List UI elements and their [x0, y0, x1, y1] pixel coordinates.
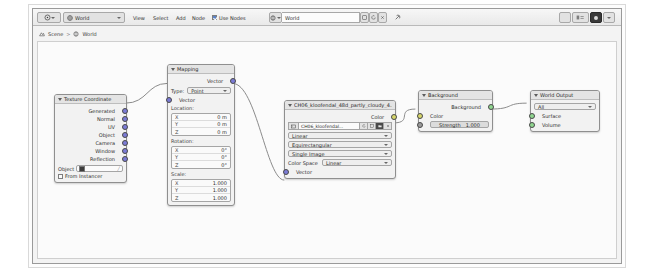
- node-world-output[interactable]: World Output All Surface Volume: [530, 90, 600, 132]
- use-nodes-checkbox[interactable]: [212, 15, 217, 20]
- input-vector[interactable]: Vector: [171, 96, 231, 103]
- use-nodes-toggle[interactable]: Use Nodes: [210, 12, 248, 23]
- output-generated[interactable]: Generated: [58, 107, 123, 114]
- collapse-icon[interactable]: [288, 104, 292, 107]
- object-socket[interactable]: [122, 132, 128, 138]
- pin-icon[interactable]: [393, 13, 402, 22]
- eyedropper-icon[interactable]: ╱: [118, 166, 120, 171]
- world-browse-button[interactable]: [269, 12, 282, 23]
- output-vector[interactable]: Vector: [171, 77, 231, 84]
- from-instancer-checkbox[interactable]: [58, 174, 63, 179]
- use-nodes-label: Use Nodes: [219, 15, 246, 21]
- node-mapping[interactable]: Mapping Vector Type: Point Vector: [167, 64, 235, 206]
- node-header[interactable]: Mapping: [168, 65, 234, 74]
- input-vector[interactable]: Vector: [288, 168, 392, 175]
- menu-node[interactable]: Node: [189, 12, 208, 23]
- world-unlink-button[interactable]: [378, 12, 387, 23]
- reflection-socket[interactable]: [122, 156, 128, 162]
- strength-input-socket[interactable]: [417, 122, 423, 128]
- image-name-field[interactable]: CH06_kloofendal...: [299, 122, 360, 130]
- image-refresh-button[interactable]: [360, 122, 368, 130]
- node-canvas[interactable]: Texture Coordinate Generated Normal UV O…: [37, 41, 617, 259]
- image-unlink-button[interactable]: [384, 122, 392, 130]
- vector-output-socket[interactable]: [230, 78, 236, 84]
- type-dropdown[interactable]: Point: [187, 87, 231, 94]
- rotation-x-row[interactable]: X 0°: [172, 147, 230, 154]
- scale-y-row[interactable]: Y 1.000: [172, 187, 230, 194]
- target-dropdown[interactable]: All: [534, 103, 596, 110]
- source-dropdown[interactable]: Single Image: [288, 150, 392, 157]
- world-new-button[interactable]: [360, 12, 369, 23]
- camera-socket[interactable]: [122, 140, 128, 146]
- color-output-socket[interactable]: [391, 114, 397, 120]
- collapse-icon[interactable]: [58, 98, 62, 101]
- background-output-socket[interactable]: [488, 104, 494, 110]
- node-texture-coordinate[interactable]: Texture Coordinate Generated Normal UV O…: [54, 94, 127, 183]
- location-y-row[interactable]: Y 0 m: [172, 121, 230, 128]
- image-new-button[interactable]: [368, 122, 376, 130]
- scale-z-row[interactable]: Z 1.000: [172, 194, 230, 201]
- output-normal[interactable]: Normal: [58, 115, 123, 122]
- strength-slider[interactable]: Strength 1.000: [430, 121, 489, 128]
- input-strength[interactable]: Strength 1.000: [422, 121, 489, 128]
- editor-type-selector[interactable]: [37, 12, 61, 23]
- interpolation-dropdown[interactable]: Linear: [288, 132, 392, 139]
- node-header[interactable]: CH06_kloofendal_48d_partly_cloudy_4...: [285, 101, 395, 110]
- location-z-row[interactable]: Z 0 m: [172, 128, 230, 135]
- uv-socket[interactable]: [122, 124, 128, 130]
- output-color[interactable]: Color: [288, 113, 392, 120]
- world-name-field[interactable]: World: [282, 12, 360, 23]
- collapse-icon[interactable]: [422, 94, 426, 97]
- snap-toggle-button[interactable]: [559, 12, 571, 23]
- volume-input-socket[interactable]: [529, 122, 535, 128]
- generated-socket[interactable]: [122, 108, 128, 114]
- color-input-socket[interactable]: [417, 113, 423, 119]
- breadcrumb-world[interactable]: World: [82, 31, 96, 37]
- image-open-button[interactable]: [376, 122, 384, 130]
- image-browse-button[interactable]: [288, 122, 299, 130]
- shader-type-selector[interactable]: World: [63, 12, 125, 23]
- output-background[interactable]: Background: [422, 103, 489, 110]
- input-color[interactable]: Color: [422, 112, 489, 119]
- projection-dropdown[interactable]: Equirectangular: [288, 141, 392, 148]
- menu-select[interactable]: Select: [150, 12, 171, 23]
- vector-input-socket[interactable]: [283, 169, 289, 175]
- collapse-icon[interactable]: [171, 68, 175, 71]
- shading-material-button[interactable]: [603, 12, 615, 23]
- shading-solid-button[interactable]: [590, 12, 602, 23]
- output-reflection[interactable]: Reflection: [58, 155, 123, 162]
- window-socket[interactable]: [122, 148, 128, 154]
- output-window[interactable]: Window: [58, 147, 123, 154]
- location-vector-group[interactable]: X 0 m Y 0 m Z 0 m: [171, 113, 231, 136]
- normal-socket[interactable]: [122, 116, 128, 122]
- rotation-z-row[interactable]: Z 0°: [172, 161, 230, 168]
- menu-add[interactable]: Add: [173, 12, 189, 23]
- node-environment-texture[interactable]: CH06_kloofendal_48d_partly_cloudy_4... C…: [284, 100, 396, 179]
- world-copy-button[interactable]: [369, 12, 378, 23]
- location-x-row[interactable]: X 0 m: [172, 114, 230, 121]
- vector-input-socket[interactable]: [166, 97, 172, 103]
- node-background[interactable]: Background Background Color Strength 1.0…: [418, 90, 493, 132]
- input-volume[interactable]: Volume: [534, 121, 596, 128]
- from-instancer-row[interactable]: From Instancer: [58, 173, 123, 179]
- axis-label: Z: [175, 195, 178, 201]
- node-header[interactable]: Texture Coordinate: [55, 95, 126, 104]
- from-instancer-label: From Instancer: [65, 173, 102, 179]
- node-header[interactable]: Background: [419, 91, 492, 100]
- breadcrumb-scene[interactable]: Scene: [48, 31, 63, 37]
- scale-vector-group[interactable]: X 1.000 Y 1.000 Z 1.000: [171, 179, 231, 202]
- object-field[interactable]: ╱: [76, 165, 123, 172]
- collapse-icon[interactable]: [534, 94, 538, 97]
- input-surface[interactable]: Surface: [534, 112, 596, 119]
- rotation-vector-group[interactable]: X 0° Y 0° Z 0°: [171, 146, 231, 169]
- output-camera[interactable]: Camera: [58, 139, 123, 146]
- surface-input-socket[interactable]: [529, 113, 535, 119]
- node-header[interactable]: World Output: [531, 91, 599, 100]
- scale-x-row[interactable]: X 1.000: [172, 180, 230, 187]
- output-object[interactable]: Object: [58, 131, 123, 138]
- color-space-dropdown[interactable]: Linear: [322, 159, 392, 166]
- output-uv[interactable]: UV: [58, 123, 123, 130]
- menu-view[interactable]: View: [130, 12, 148, 23]
- overlays-toggle-button[interactable]: [572, 12, 589, 23]
- rotation-y-row[interactable]: Y 0°: [172, 154, 230, 161]
